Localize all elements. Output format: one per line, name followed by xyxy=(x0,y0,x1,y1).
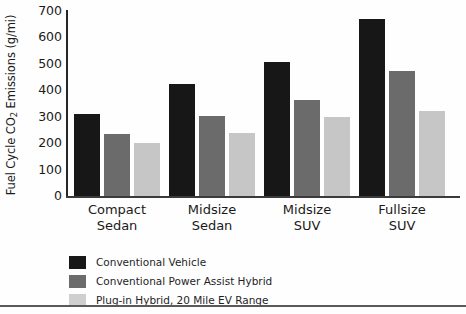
bar xyxy=(359,19,385,196)
legend-label: Conventional Vehicle xyxy=(96,256,206,268)
chart-figure: Fuel Cycle CO2 Emissions (g/mi) 01002003… xyxy=(0,0,466,314)
legend-swatch-icon xyxy=(69,275,86,288)
bar xyxy=(324,117,350,196)
bar xyxy=(264,62,290,196)
bar xyxy=(104,134,130,196)
bar-group xyxy=(74,11,160,196)
footer-divider xyxy=(0,305,466,307)
bar xyxy=(134,143,160,196)
legend-label: Conventional Power Assist Hybrid xyxy=(96,275,272,287)
bar-group xyxy=(264,11,350,196)
chart-legend: Conventional Vehicle Conventional Power … xyxy=(69,254,399,311)
x-axis-category-label: FullsizeSUV xyxy=(337,202,466,233)
y-axis-tick-labels: 0100200300400500600700 xyxy=(18,0,62,314)
x-axis-category-label-line: SUV xyxy=(337,218,466,234)
y-axis-tick-label: 500 xyxy=(22,58,62,70)
bar xyxy=(389,71,415,196)
bar xyxy=(294,100,320,196)
y-axis-tick-label: 0 xyxy=(22,190,62,202)
bar xyxy=(419,111,445,196)
legend-item: Conventional Vehicle xyxy=(69,254,399,270)
legend-item: Conventional Power Assist Hybrid xyxy=(69,273,399,289)
bar-group xyxy=(169,11,255,196)
y-axis-tick-label: 600 xyxy=(22,31,62,43)
y-axis-title-after: Emissions (g/mi) xyxy=(4,15,18,112)
bar xyxy=(169,84,195,196)
y-axis-tick-label: 300 xyxy=(22,111,62,123)
bar xyxy=(74,114,100,196)
legend-swatch-icon xyxy=(69,256,86,269)
y-axis-tick-label: 400 xyxy=(22,84,62,96)
bar xyxy=(199,116,225,196)
y-axis-tick-label: 200 xyxy=(22,137,62,149)
bar-group xyxy=(359,11,445,196)
bar xyxy=(229,133,255,196)
x-axis-line xyxy=(66,196,460,198)
plot-area xyxy=(67,11,460,196)
y-axis-title-before: Fuel Cycle CO xyxy=(4,117,18,195)
y-axis-tick-label: 700 xyxy=(22,5,62,17)
x-axis-category-label-line: Fullsize xyxy=(337,202,466,218)
y-axis-tick-label: 100 xyxy=(22,164,62,176)
